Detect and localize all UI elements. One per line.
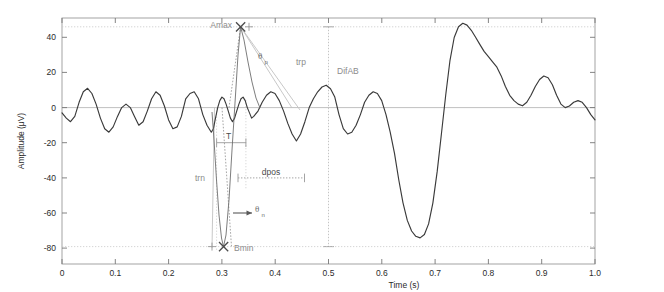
x-tick-label-2: 0.2 bbox=[163, 268, 175, 278]
x-tick-label-6: 0.6 bbox=[376, 268, 388, 278]
chart-figure: 40 20 0 -20 -40 -60 -80 Amplitude (μV) bbox=[0, 0, 664, 292]
y-tick-label-0: 0 bbox=[51, 103, 56, 113]
y-tick-label-neg80: -80 bbox=[44, 243, 57, 253]
theta-p-symbol: θ bbox=[258, 51, 262, 61]
x-tick-label-0: 0 bbox=[60, 268, 65, 278]
annotation-label-difab: DifAB bbox=[337, 66, 359, 76]
chart-background bbox=[0, 0, 664, 292]
x-tick-label-7: 0.7 bbox=[429, 268, 441, 278]
y-axis-title: Amplitude (μV) bbox=[16, 113, 26, 170]
x-tick-label-5: 0.5 bbox=[323, 268, 335, 278]
annotation-label-bmin: Bmin bbox=[234, 243, 254, 253]
y-tick-label-neg40: -40 bbox=[44, 173, 57, 183]
x-tick-label-8: 0.8 bbox=[482, 268, 494, 278]
chart-svg: 40 20 0 -20 -40 -60 -80 Amplitude (μV) bbox=[0, 0, 664, 292]
x-tick-label-1: 0.1 bbox=[109, 268, 121, 278]
y-tick-label-neg60: -60 bbox=[44, 208, 57, 218]
annotation-label-dpos: dpos bbox=[262, 167, 280, 177]
annotation-label-trn: trn bbox=[195, 173, 205, 183]
y-tick-label-neg20: -20 bbox=[44, 138, 57, 148]
x-tick-label-4: 0.4 bbox=[269, 268, 281, 278]
annotation-label-t: T bbox=[226, 131, 231, 141]
x-tick-label-3: 0.3 bbox=[216, 268, 228, 278]
x-tick-label-9: 0.9 bbox=[536, 268, 548, 278]
theta-n-subscript: n bbox=[262, 212, 265, 218]
annotation-label-amax: Amax bbox=[210, 20, 232, 30]
x-tick-label-10: 1.0 bbox=[589, 268, 601, 278]
x-axis-title: Time (s) bbox=[389, 280, 420, 290]
annotation-label-trp: trp bbox=[296, 57, 306, 67]
y-tick-label-20: 20 bbox=[47, 67, 57, 77]
y-tick-label-40: 40 bbox=[47, 32, 57, 42]
theta-n-symbol: θ bbox=[255, 204, 259, 214]
